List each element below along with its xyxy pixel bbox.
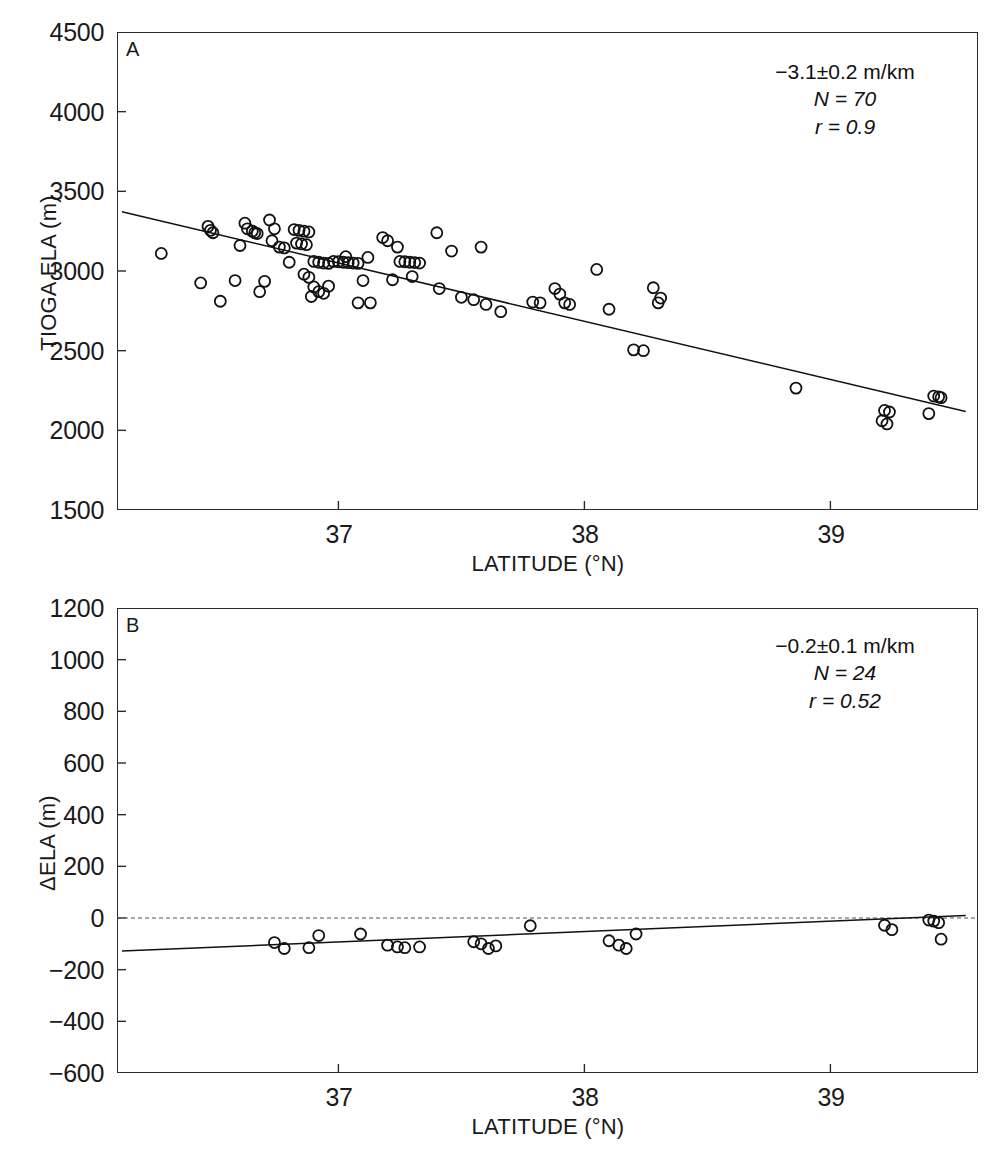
panel-b: B 1200 1000 800 600 400 200 0 −200 −400 … xyxy=(0,570,998,1151)
data-point-marker xyxy=(525,920,536,931)
data-point-marker xyxy=(235,240,246,251)
data-point-marker xyxy=(456,292,467,303)
data-point-marker xyxy=(631,929,642,940)
data-point-marker xyxy=(431,227,442,238)
data-point-marker xyxy=(195,277,206,288)
data-point-marker xyxy=(399,942,410,953)
data-point-marker xyxy=(156,248,167,259)
data-point-marker xyxy=(490,940,501,951)
data-point-marker xyxy=(936,934,947,945)
regression-line xyxy=(122,915,966,951)
data-point-marker xyxy=(591,264,602,275)
data-point-marker xyxy=(481,299,492,310)
data-point-marker xyxy=(790,383,801,394)
panel-a-canvas xyxy=(0,0,998,570)
panel-b-canvas xyxy=(0,570,998,1151)
data-point-marker xyxy=(468,294,479,305)
axis-ticks-group xyxy=(117,660,830,1073)
data-point-marker xyxy=(648,282,659,293)
data-point-marker xyxy=(266,235,277,246)
axis-ticks-group xyxy=(117,112,830,510)
data-point-marker xyxy=(355,929,366,940)
data-point-marker xyxy=(446,246,457,257)
data-points-group xyxy=(156,215,947,430)
data-point-marker xyxy=(604,304,615,315)
data-point-marker xyxy=(365,297,376,308)
panel-a: A 4500 4000 3500 3000 2500 2000 1500 37 … xyxy=(0,0,998,570)
data-point-marker xyxy=(269,223,280,234)
data-point-marker xyxy=(230,275,241,286)
data-point-marker xyxy=(392,242,403,253)
data-point-marker xyxy=(313,930,324,941)
data-point-marker xyxy=(535,297,546,308)
data-point-marker xyxy=(259,276,270,287)
data-point-marker xyxy=(284,257,295,268)
data-point-marker xyxy=(468,936,479,947)
data-point-marker xyxy=(362,252,373,263)
regression-line xyxy=(122,212,966,412)
data-point-marker xyxy=(254,286,265,297)
data-point-marker xyxy=(358,275,369,286)
data-point-marker xyxy=(495,306,506,317)
data-point-marker xyxy=(215,296,226,307)
data-point-marker xyxy=(414,941,425,952)
data-point-marker xyxy=(476,242,487,253)
data-point-marker xyxy=(923,408,934,419)
figure-root: A 4500 4000 3500 3000 2500 2000 1500 37 … xyxy=(0,0,998,1151)
data-point-marker xyxy=(353,297,364,308)
